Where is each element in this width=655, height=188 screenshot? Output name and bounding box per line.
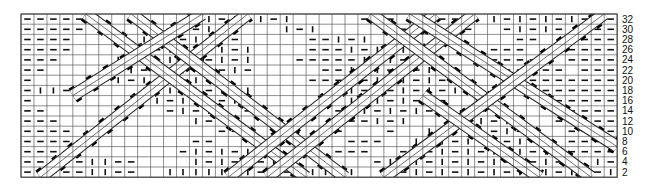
row-label: 2 <box>622 168 628 178</box>
row-label: 24 <box>622 55 633 65</box>
row-label: 32 <box>622 15 633 25</box>
row-label: 14 <box>622 106 633 116</box>
row-label: 4 <box>622 157 628 167</box>
row-label: 12 <box>622 117 633 127</box>
row-label: 22 <box>622 66 633 76</box>
knitting-chart <box>0 0 655 188</box>
